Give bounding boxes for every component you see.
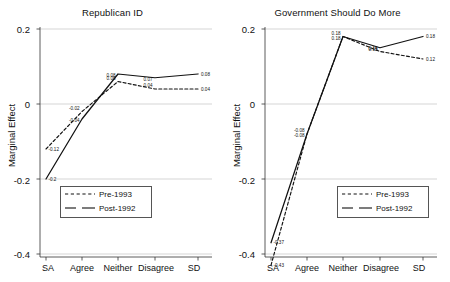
plot-area-right: -0.43-0.080.180.140.12-0.37-0.080.180.15… <box>225 0 450 282</box>
chart-panel-government-should-do-more: Government Should Do More Marginal Effec… <box>225 0 450 282</box>
solid-line-icon <box>65 203 95 213</box>
legend-right: Pre-1993 Post-1992 <box>337 186 429 218</box>
dashed-line-icon <box>65 189 95 199</box>
legend-label-pre: Pre-1993 <box>99 190 132 199</box>
svg-text:-0.12: -0.12 <box>49 147 60 152</box>
svg-text:0.08: 0.08 <box>201 72 210 77</box>
svg-text:0.04: 0.04 <box>144 83 153 88</box>
svg-text:0.12: 0.12 <box>426 57 435 62</box>
dashed-line-icon <box>342 189 372 199</box>
svg-text:0.18: 0.18 <box>332 36 341 41</box>
legend-row-post: Post-1992 <box>61 201 151 215</box>
svg-text:0.08: 0.08 <box>107 73 116 78</box>
svg-text:-0.37: -0.37 <box>274 240 285 245</box>
legend-row-post: Post-1992 <box>338 201 428 215</box>
legend-left: Pre-1993 Post-1992 <box>60 186 152 218</box>
chart-panel-republican-id: Republican ID Marginal Effect 0.2 0 -0.2… <box>0 0 225 282</box>
svg-text:-0.2: -0.2 <box>49 177 57 182</box>
figure-panel-pair: Republican ID Marginal Effect 0.2 0 -0.2… <box>0 0 450 282</box>
svg-text:0.04: 0.04 <box>201 87 210 92</box>
svg-text:-0.02: -0.02 <box>69 106 80 111</box>
svg-text:-0.08: -0.08 <box>294 133 305 138</box>
svg-text:0.18: 0.18 <box>426 34 435 39</box>
legend-row-pre: Pre-1993 <box>61 187 151 201</box>
legend-label-post: Post-1992 <box>376 204 412 213</box>
plot-area-left: -0.12-0.020.060.040.04-0.2-0.040.080.070… <box>0 0 225 282</box>
solid-line-icon <box>342 203 372 213</box>
svg-text:0.15: 0.15 <box>369 47 378 52</box>
svg-text:0.07: 0.07 <box>144 77 153 82</box>
legend-label-post: Post-1992 <box>99 204 135 213</box>
legend-label-pre: Pre-1993 <box>376 190 409 199</box>
legend-row-pre: Pre-1993 <box>338 187 428 201</box>
svg-text:-0.04: -0.04 <box>69 118 80 123</box>
svg-text:-0.43: -0.43 <box>274 263 285 268</box>
